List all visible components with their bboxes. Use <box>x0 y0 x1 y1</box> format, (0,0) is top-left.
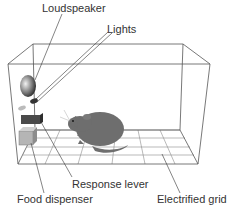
rat-eye <box>72 120 74 122</box>
label-electrified-grid: Electrified grid <box>157 193 227 205</box>
label-lights: Lights <box>107 23 136 35</box>
loudspeaker-icon <box>20 75 36 97</box>
leader-lines <box>31 14 180 193</box>
label-response-lever: Response lever <box>72 178 148 190</box>
box-frame <box>8 44 210 164</box>
food-dispenser-icon <box>19 127 37 145</box>
response-lever-icon <box>21 113 43 124</box>
rat-icon <box>68 112 128 153</box>
label-loudspeaker: Loudspeaker <box>42 2 106 14</box>
label-food-dispenser: Food dispenser <box>17 193 93 205</box>
light-icon <box>18 105 27 111</box>
rat-whiskers <box>60 110 70 121</box>
